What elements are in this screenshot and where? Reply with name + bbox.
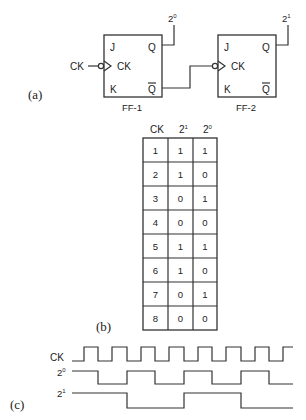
svg-text:0: 0	[202, 313, 207, 324]
table-header-ck: CK	[150, 124, 164, 135]
svg-text:5: 5	[153, 241, 158, 252]
ff1-name: FF-1	[122, 102, 142, 113]
svg-text:6: 6	[153, 265, 158, 276]
svg-text:0: 0	[178, 217, 183, 228]
ff2-clock-bubble-icon	[212, 63, 217, 68]
svg-text:7: 7	[153, 289, 158, 300]
svg-text:1: 1	[178, 169, 183, 180]
ff1-q-pin: Q	[148, 42, 156, 53]
timing-label-2-1: 21	[57, 388, 66, 399]
output-2-1-label: 21	[282, 13, 291, 24]
ff1-clock-bubble-icon	[98, 63, 103, 68]
svg-text:0: 0	[202, 169, 207, 180]
q0-waveform	[72, 371, 293, 384]
ff2-q-output-wire	[276, 25, 288, 45]
ff1-qbar-pin: Q	[148, 84, 156, 95]
ff1-ck-pin: CK	[117, 61, 131, 72]
ff2-q-pin: Q	[262, 42, 270, 53]
svg-text:0: 0	[202, 217, 207, 228]
part-a-label: (a)	[28, 87, 42, 102]
svg-text:1: 1	[178, 145, 183, 156]
flip-flop-1: J K CK Q Q CK FF-1	[70, 35, 162, 113]
svg-text:1: 1	[202, 145, 207, 156]
ff2-ck-pin: CK	[231, 61, 245, 72]
ff1-k-pin: K	[110, 84, 117, 95]
svg-text:3: 3	[153, 193, 158, 204]
svg-text:1: 1	[178, 241, 183, 252]
ck-waveform	[72, 347, 293, 361]
svg-text:0: 0	[202, 265, 207, 276]
ff1-q-output-wire	[162, 25, 174, 45]
q1-waveform	[72, 393, 293, 408]
svg-text:0: 0	[178, 193, 183, 204]
flip-flop-2: J K CK Q Q FF-2	[212, 35, 276, 113]
svg-text:8: 8	[153, 313, 158, 324]
svg-text:1: 1	[202, 193, 207, 204]
svg-text:1: 1	[178, 265, 183, 276]
part-c-label: (c)	[10, 397, 24, 412]
svg-text:0: 0	[178, 313, 183, 324]
svg-text:0: 0	[178, 289, 183, 300]
ck-input-label: CK	[70, 61, 84, 72]
table-header-2-1: 21	[179, 124, 189, 135]
timing-label-ck: CK	[50, 352, 64, 363]
svg-text:1: 1	[202, 241, 207, 252]
svg-text:1: 1	[202, 289, 207, 300]
ff2-name: FF-2	[236, 102, 256, 113]
part-b-label: (b)	[96, 319, 111, 334]
svg-text:2: 2	[153, 169, 158, 180]
ff2-j-pin: J	[224, 42, 229, 53]
ff1-j-pin: J	[110, 42, 115, 53]
ff1-qbar-to-ff2-ck-wire	[162, 66, 213, 88]
table-header-2-0: 20	[203, 124, 213, 135]
svg-text:1: 1	[153, 145, 158, 156]
svg-text:4: 4	[153, 217, 158, 228]
output-2-0-label: 20	[168, 13, 177, 24]
ff2-k-pin: K	[224, 84, 231, 95]
timing-label-2-0: 20	[57, 367, 66, 378]
count-table: CK 21 20 1 1 1 2 1 0 3 0 1	[143, 124, 217, 330]
counter-diagram: (a) J K CK Q Q CK FF-1 20 J K CK Q Q FF-…	[0, 0, 306, 420]
ff2-qbar-pin: Q	[262, 84, 270, 95]
